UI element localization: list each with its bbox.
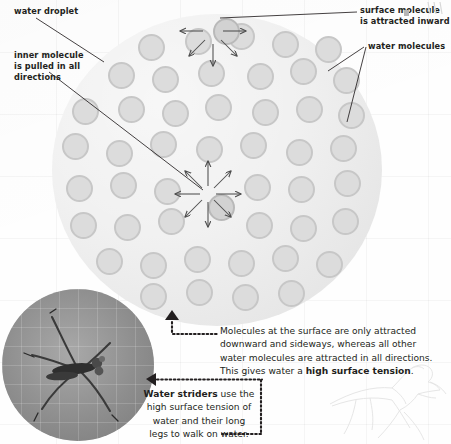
diagram-canvas: water droplet inner molecule is pulled i… [0, 0, 451, 444]
corner-marks [0, 0, 451, 444]
corner-mark-block [404, 10, 409, 16]
